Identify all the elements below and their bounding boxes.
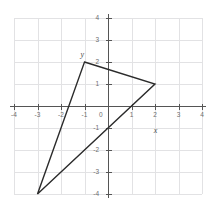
x-axis-tick-label: 1 <box>130 112 134 119</box>
y-axis-tick-label: 3 <box>95 37 99 44</box>
coordinate-plane-figure: -4-3-2-1012344321-1-2-3-4 x y <box>0 0 217 213</box>
x-axis-tick-label: 2 <box>153 112 157 119</box>
axes <box>10 14 206 198</box>
y-axis-tick-label: -3 <box>93 169 99 176</box>
x-axis-tick-label: 4 <box>200 112 204 119</box>
x-axis-label: x <box>154 127 158 135</box>
plot-canvas <box>0 0 217 213</box>
x-axis-tick-label: -3 <box>35 112 41 119</box>
y-axis-label: y <box>81 51 85 59</box>
y-axis-tick-label: 2 <box>95 59 99 66</box>
y-axis-tick-label: -2 <box>93 147 99 154</box>
origin-tick-label: 0 <box>99 112 103 119</box>
y-axis-tick-label: 4 <box>95 15 99 22</box>
y-axis-tick-label: -4 <box>93 191 99 198</box>
x-axis-tick-label: -1 <box>82 112 88 119</box>
y-axis-tick-label: 1 <box>95 81 99 88</box>
x-axis-tick-label: -2 <box>58 112 64 119</box>
x-axis-tick-label: 3 <box>177 112 181 119</box>
y-axis-tick-label: -1 <box>93 125 99 132</box>
x-axis-tick-label: -4 <box>11 112 17 119</box>
